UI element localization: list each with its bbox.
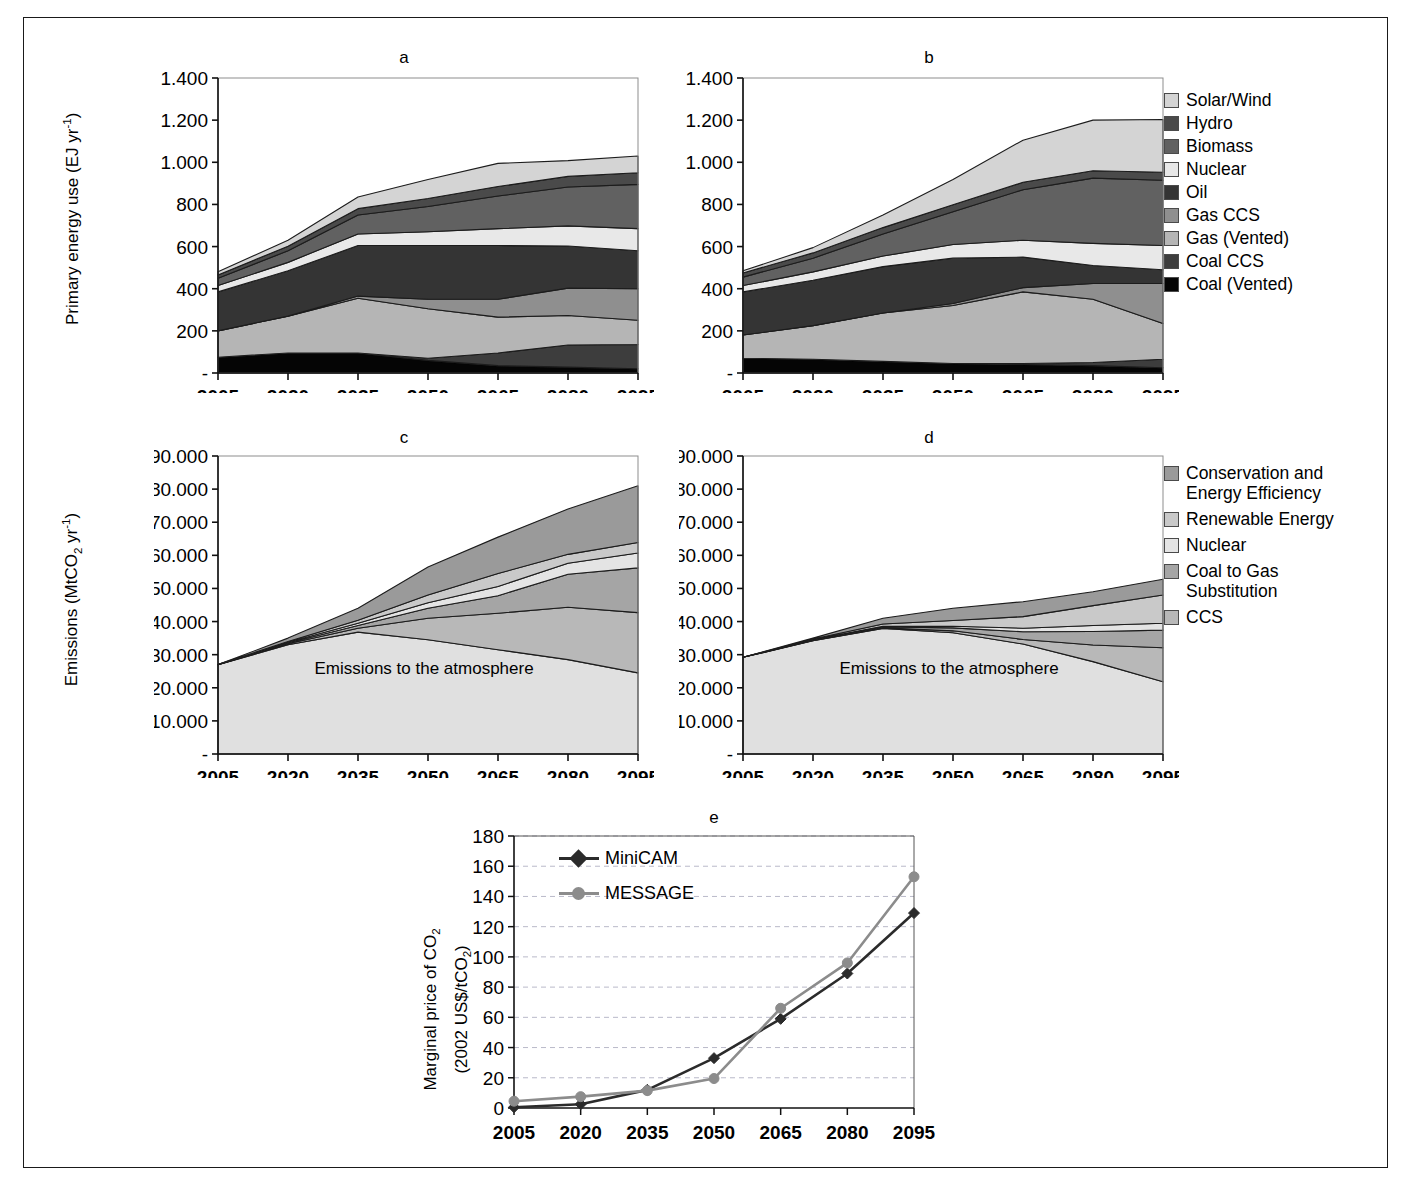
panel-d: d MESSAGE 90.00080.00070.00060.00050.000…	[679, 428, 1179, 778]
y-tick-label: 800	[176, 194, 208, 215]
y-tick-label: -	[727, 363, 733, 384]
panel-d-plot: 90.00080.00070.00060.00050.00040.00030.0…	[679, 428, 1179, 778]
wedge-legend-item-coal-to-gas-substitution: Coal to Gas Substitution	[1164, 561, 1379, 601]
legend-swatch-icon	[1164, 466, 1179, 481]
x-tick-label: 2065	[477, 386, 520, 393]
panel-e-legend-item-message: MESSAGE	[559, 883, 694, 904]
y-tick-label: 70.000	[679, 512, 733, 533]
legend-item-coal-ccs: Coal CCS	[1164, 251, 1379, 271]
panel-c-ylabel: Emissions (MtCO2 yr-1)	[60, 490, 83, 710]
panel-a-ylabel: Primary energy use (EJ yr-1)	[61, 109, 83, 329]
y-tick-label: 60.000	[679, 545, 733, 566]
figure-frame: a MiniCAM 1.4001.2001.000800600400200-20…	[23, 17, 1388, 1168]
y-tick-label: 600	[176, 237, 208, 258]
y-tick-label: 50.000	[679, 578, 733, 599]
legend-item-label: Oil	[1186, 182, 1207, 202]
panel-e-legend-label: MiniCAM	[605, 848, 678, 869]
y-tick-label: 400	[176, 279, 208, 300]
x-tick-label: 2005	[722, 386, 765, 393]
x-tick-label: 2050	[407, 767, 449, 778]
y-tick-label: 1.200	[685, 110, 733, 131]
y-tick-label: -	[727, 744, 733, 765]
x-tick-label: 2020	[792, 386, 834, 393]
x-tick-label: 2065	[1002, 386, 1045, 393]
y-tick-label: 10.000	[154, 711, 208, 732]
y-tick-label: 90.000	[154, 446, 208, 467]
y-tick-label: -	[202, 363, 208, 384]
wedge-legend-item-conservation-and-energy-efficiency: Conservation and Energy Efficiency	[1164, 463, 1379, 503]
y-tick-label: 1.000	[160, 152, 208, 173]
y-tick-label: 400	[701, 279, 733, 300]
legend-item-biomass: Biomass	[1164, 136, 1379, 156]
y-tick-label: 40.000	[154, 612, 208, 633]
wedge-legend-item-label: Conservation and Energy Efficiency	[1186, 463, 1323, 503]
y-tick-label: 20	[483, 1068, 504, 1089]
legend-swatch-icon	[1164, 231, 1179, 246]
legend-line-icon	[559, 857, 599, 860]
x-tick-label: 2005	[197, 767, 240, 778]
y-tick-label: 20.000	[679, 678, 733, 699]
x-tick-label: 2005	[493, 1122, 536, 1143]
x-tick-label: 2020	[267, 386, 309, 393]
x-tick-label: 2035	[862, 767, 905, 778]
x-tick-label: 2020	[792, 767, 834, 778]
legend-swatch-icon	[1164, 512, 1179, 527]
legend-swatch-icon	[1164, 139, 1179, 154]
x-tick-label: 2080	[547, 767, 589, 778]
legend-item-oil: Oil	[1164, 182, 1379, 202]
x-tick-label: 2005	[197, 386, 240, 393]
legend-marker-diamond-icon	[569, 849, 587, 867]
y-tick-label: 200	[176, 321, 208, 342]
x-tick-label: 2050	[932, 767, 974, 778]
y-tick-label: 70.000	[154, 512, 208, 533]
x-tick-label: 2005	[722, 767, 765, 778]
panel-b: b MESSAGE 1.4001.2001.000800600400200-20…	[679, 48, 1179, 393]
y-tick-label: 40.000	[679, 612, 733, 633]
wedge-legend-item-label: Nuclear	[1186, 535, 1246, 555]
legend-item-label: Solar/Wind	[1186, 90, 1272, 110]
y-tick-label: -	[202, 744, 208, 765]
x-tick-label: 2035	[337, 386, 380, 393]
x-tick-label: 2050	[932, 386, 974, 393]
legend-item-label: Gas CCS	[1186, 205, 1260, 225]
legend-item-label: Coal CCS	[1186, 251, 1264, 271]
y-tick-label: 60	[483, 1007, 504, 1028]
y-tick-label: 80.000	[679, 479, 733, 500]
wedge-legend-item-label: Coal to Gas Substitution	[1186, 561, 1278, 601]
y-tick-label: 1.400	[685, 68, 733, 89]
legend-swatch-icon	[1164, 116, 1179, 131]
x-tick-label: 2020	[267, 767, 309, 778]
y-tick-label: 20.000	[154, 678, 208, 699]
legend-swatch-icon	[1164, 254, 1179, 269]
panel-a: a MiniCAM 1.4001.2001.000800600400200-20…	[154, 48, 654, 393]
wedge-legend-item-label: Renewable Energy	[1186, 509, 1334, 529]
legend-item-label: Hydro	[1186, 113, 1233, 133]
panel-e-legend-label: MESSAGE	[605, 883, 694, 904]
legend-item-nuclear: Nuclear	[1164, 159, 1379, 179]
legend-item-gas-vented: Gas (Vented)	[1164, 228, 1379, 248]
x-tick-label: 2050	[693, 1122, 735, 1143]
x-tick-label: 2065	[1002, 767, 1045, 778]
legend-swatch-icon	[1164, 277, 1179, 292]
x-tick-label: 2035	[337, 767, 380, 778]
wedge-legend-item-nuclear: Nuclear	[1164, 535, 1379, 555]
legend-item-solar-wind: Solar/Wind	[1164, 90, 1379, 110]
y-tick-label: 1.400	[160, 68, 208, 89]
panel-c-atmosphere-label: Emissions to the atmosphere	[314, 658, 534, 679]
x-tick-label: 2095	[617, 767, 654, 778]
legend-line-icon	[559, 892, 599, 895]
panel-b-plot: 1.4001.2001.000800600400200-200520202035…	[679, 48, 1179, 393]
legend-item-hydro: Hydro	[1164, 113, 1379, 133]
legend-swatch-icon	[1164, 610, 1179, 625]
y-tick-label: 30.000	[679, 645, 733, 666]
legend-swatch-icon	[1164, 185, 1179, 200]
y-tick-label: 0	[493, 1098, 504, 1119]
y-tick-label: 50.000	[154, 578, 208, 599]
panel-e-legend: MiniCAMMESSAGE	[559, 848, 694, 918]
x-tick-label: 2080	[826, 1122, 868, 1143]
x-tick-label: 2035	[862, 386, 905, 393]
legend-swatch-icon	[1164, 538, 1179, 553]
legend-swatch-icon	[1164, 162, 1179, 177]
legend-swatch-icon	[1164, 564, 1179, 579]
panel-c: c MiniCAM 90.00080.00070.00060.00050.000…	[154, 428, 654, 778]
